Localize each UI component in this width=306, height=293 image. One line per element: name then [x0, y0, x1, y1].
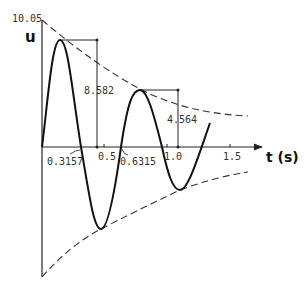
tick-label-1-5: 1.5 — [223, 151, 241, 162]
tick-label-1-0: 1.0 — [164, 151, 182, 162]
second-amplitude-label: 4.564 — [167, 114, 197, 125]
upper-envelope — [42, 20, 248, 116]
second-zero-crossing-label: 0.6315 — [120, 156, 156, 167]
y-axis-label: u — [25, 28, 36, 46]
y-max-label: 10.05 — [12, 13, 42, 24]
first-amplitude-label: 8.582 — [84, 85, 114, 96]
response-curve — [42, 40, 210, 229]
zero-crossing-leader-2 — [122, 149, 128, 155]
zero-crossing-leader-1 — [70, 150, 80, 154]
lower-envelope — [42, 172, 248, 277]
tick-label-0-5: 0.5 — [98, 151, 116, 162]
first-zero-crossing-label: 0.3157 — [47, 156, 83, 167]
x-axis-label: t (s) — [266, 149, 299, 165]
vibration-diagram: 10.05 u t (s) 0.5 1.0 1.5 0.3157 0.6315 … — [0, 0, 306, 293]
